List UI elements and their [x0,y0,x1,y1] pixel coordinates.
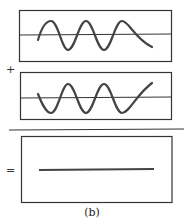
figure-caption: (b) [0,206,184,219]
wave-a-curve [38,21,152,50]
interference-diagram [0,0,184,221]
wave-b-panel [21,73,172,120]
wave-a-panel [20,11,172,62]
equals-operator: = [6,165,15,176]
result-panel [22,137,173,203]
result-flat-line [39,169,154,170]
plus-operator: + [6,64,15,75]
sum-separator-line [9,129,184,130]
